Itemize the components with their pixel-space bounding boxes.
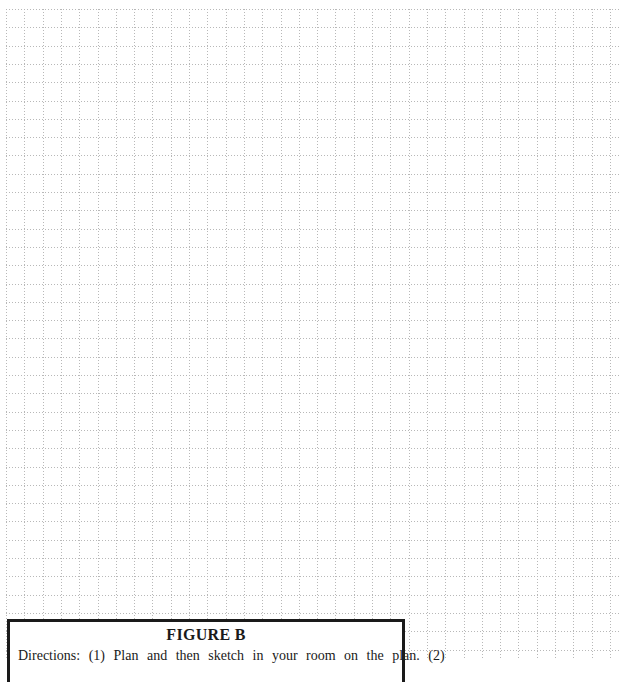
figure-directions: Directions: (1) Plan and then sketch in …: [18, 648, 402, 664]
figure-caption-box: FIGURE B Directions: (1) Plan and then s…: [7, 619, 405, 682]
figure-title: FIGURE B: [10, 626, 402, 644]
grid-lines: [6, 9, 620, 659]
graph-paper-grid: [6, 9, 620, 659]
